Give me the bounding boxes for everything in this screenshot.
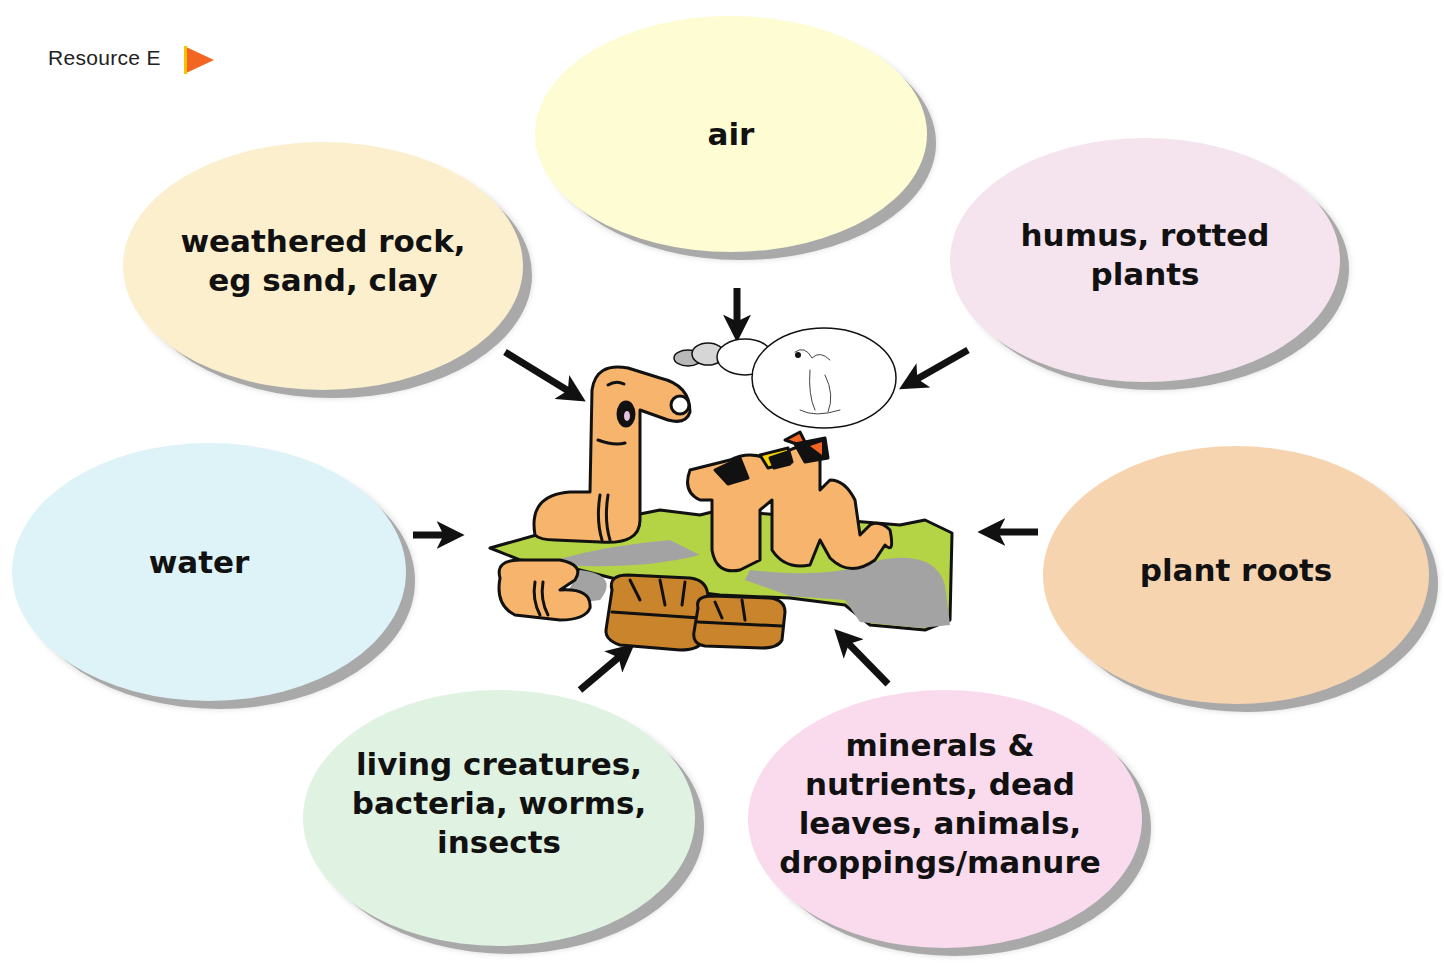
diagram-scene xyxy=(0,0,1444,973)
arrow-from-weathered-rock-icon xyxy=(505,352,575,395)
arrow-from-living-creatures-icon xyxy=(580,652,625,690)
arrow-from-humus-icon xyxy=(910,350,968,383)
thought-bubble xyxy=(752,328,896,428)
arrow-from-minerals-icon xyxy=(843,638,888,684)
worm-picnic-illustration xyxy=(490,328,952,650)
